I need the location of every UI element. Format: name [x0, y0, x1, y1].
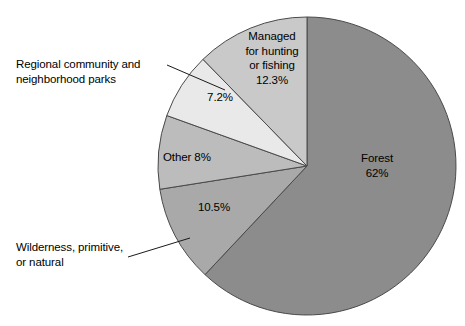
- slice-value-wilderness: 10.5%: [185, 200, 243, 215]
- slice-label-other: Other 8%: [163, 150, 249, 165]
- callout-label-wilderness: Wilderness, primitive, or natural: [16, 240, 166, 269]
- pie-chart-figure: Forest 62% Managed for hunting or fishin…: [0, 0, 465, 326]
- slice-label-managed: Managed for hunting or fishing 12.3%: [232, 29, 312, 87]
- callout-label-regional: Regional community and neighborhood park…: [16, 57, 166, 86]
- slice-label-forest: Forest 62%: [341, 151, 413, 180]
- slice-value-regional: 7.2%: [196, 90, 244, 105]
